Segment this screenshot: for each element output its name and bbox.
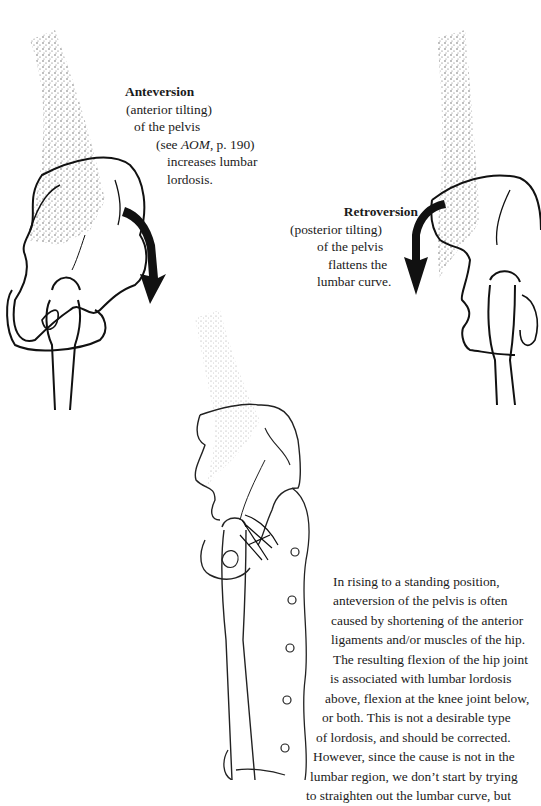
caption-line: of the pelvis [125,118,257,136]
caption-line: (see AOM, p. 190) [125,136,257,154]
retroversion-figure [404,30,541,405]
femoral-head [52,278,80,290]
paragraph-line: is associated with lumbar lordosis [330,669,512,689]
lumbar-spine-stipple [28,30,105,245]
femur [222,530,255,780]
caption-line: lordosis. [125,171,257,189]
ischium [201,540,250,579]
caption-line: (anterior tilting) [125,101,257,119]
paragraph-line: In rising to a standing position, [333,572,500,592]
femoral-head [222,518,246,527]
femur [46,300,80,410]
aom-reference: AOM [181,137,210,152]
retroversion-title: Retroversion [344,204,418,219]
standing-hip-figure [195,310,309,780]
paragraph-line: However, since the cause is not in the [313,747,515,767]
caption-line: increases lumbar [125,153,257,171]
lumbar-spine-stipple [437,30,480,278]
retroversion-caption: Retroversion (posterior tilting) of the … [290,203,418,291]
paragraph-line: caused by shortening of the anterior [331,611,523,631]
caption-line: of the pelvis [290,238,418,256]
femur [488,285,515,405]
paragraph-line: ligaments and/or muscles of the hip. [331,630,525,650]
anteversion-caption: Anteversion (anterior tilting) of the pe… [125,83,257,189]
hip-flexor-muscle [292,488,309,780]
caption-line: lumbar curve. [290,273,418,291]
paragraph-line: lumbar region, we don’t start by trying [310,767,518,787]
anteversion-title: Anteversion [125,84,194,99]
caption-line: flattens the [290,256,418,274]
paragraph-line: or both. This is not a desirable type [322,708,511,728]
paragraph-line: of lordosis, and should be corrected. [316,728,511,748]
paragraph-line: above, flexion at the knee joint below, [325,689,529,709]
paragraph-line: to straighten out the lumbar curve, but [306,786,511,806]
paragraph-line: anteversion of the pelvis is often [333,591,507,611]
anterior-tilt-arrow [122,207,166,304]
femoral-head [490,271,520,282]
lumbar-spine-stipple [195,310,260,490]
paragraph-line: The resulting flexion of the hip joint [333,650,528,670]
caption-line: (posterior tilting) [290,221,418,239]
